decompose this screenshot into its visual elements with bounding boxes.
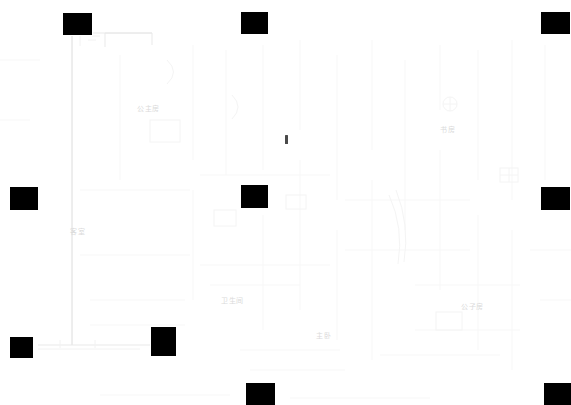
marker-top-right[interactable] bbox=[541, 12, 570, 34]
horizontal-walls bbox=[80, 175, 520, 370]
marker-bottom-left-tall[interactable] bbox=[151, 327, 176, 356]
marker-top-center[interactable] bbox=[241, 12, 268, 34]
room-label-master-bedroom: 主卧 bbox=[316, 332, 331, 341]
room-label-bathroom: 卫生间 bbox=[221, 297, 244, 306]
marker-top-left[interactable] bbox=[63, 13, 92, 35]
marker-bottom-left[interactable] bbox=[10, 337, 33, 358]
corridor-detail bbox=[38, 340, 152, 349]
floorplan-linework bbox=[0, 0, 571, 405]
room-label-guest-room: 客室 bbox=[70, 228, 85, 237]
floorplan-vector bbox=[0, 0, 571, 405]
marker-left-middle[interactable] bbox=[10, 187, 38, 210]
floorplan-canvas: 公主房 书房 客室 卫生间 主卧 公子房 bbox=[0, 0, 571, 405]
marker-bottom-center[interactable] bbox=[246, 383, 275, 405]
plan-pointer-tick bbox=[285, 135, 288, 144]
marker-bottom-right[interactable] bbox=[544, 383, 571, 405]
fixtures bbox=[150, 60, 518, 330]
structural-walls bbox=[72, 27, 152, 345]
room-label-princess-room: 公主房 bbox=[137, 105, 160, 114]
guide-lines bbox=[0, 60, 571, 398]
partition-walls bbox=[120, 40, 545, 370]
room-label-prince-room: 公子房 bbox=[461, 303, 484, 312]
room-label-study: 书房 bbox=[440, 126, 455, 135]
marker-center-middle[interactable] bbox=[241, 185, 268, 208]
marker-right-middle[interactable] bbox=[541, 187, 570, 210]
